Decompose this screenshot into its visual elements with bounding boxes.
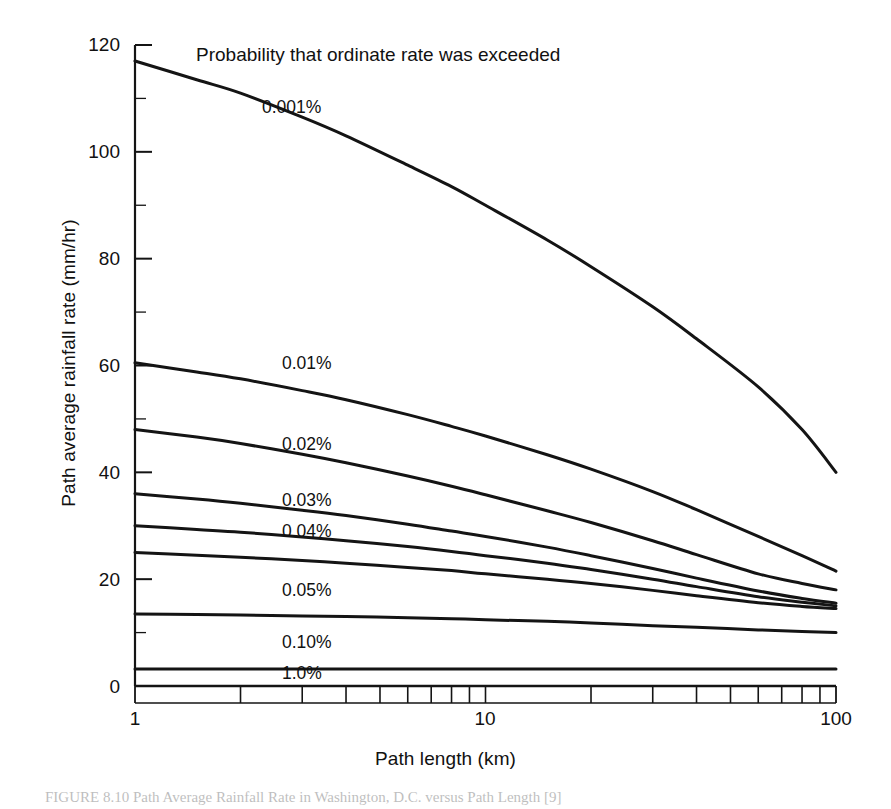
curve-label-004: 0.04% xyxy=(282,521,332,542)
xtick-label-1: 1 xyxy=(105,708,165,730)
curve-005 xyxy=(135,552,836,608)
xtick-label-10: 10 xyxy=(455,708,515,730)
xtick-label-100: 100 xyxy=(806,708,866,730)
curve-label-10: 1.0% xyxy=(282,663,322,684)
chart-annotation: Probability that ordinate rate was excee… xyxy=(196,44,560,66)
curve-001 xyxy=(135,363,836,571)
curve-label-002: 0.02% xyxy=(282,434,332,455)
curve-label-005: 0.05% xyxy=(282,580,332,601)
curve-003 xyxy=(135,494,836,604)
curve-label-0001: 0.001% xyxy=(262,97,321,118)
curve-002 xyxy=(135,430,836,590)
curve-0001 xyxy=(135,61,836,472)
ytick-label-120: 120 xyxy=(60,34,120,56)
figure-caption: FIGURE 8.10 Path Average Rainfall Rate i… xyxy=(45,789,845,806)
curve-label-003: 0.03% xyxy=(282,490,332,511)
chart-curves xyxy=(135,61,836,669)
y-axis-title: Path average rainfall rate (mm/hr) xyxy=(58,123,80,603)
figure-container: 120 100 80 60 40 20 0 1 10 100 Path leng… xyxy=(0,0,891,809)
rainfall-rate-chart xyxy=(0,0,891,809)
ytick-label-0: 0 xyxy=(60,676,120,698)
curve-010 xyxy=(135,614,836,633)
x-axis-title: Path length (km) xyxy=(0,748,891,770)
chart-axes xyxy=(135,45,836,703)
curve-label-010: 0.10% xyxy=(282,632,332,653)
curve-label-001: 0.01% xyxy=(282,353,332,374)
